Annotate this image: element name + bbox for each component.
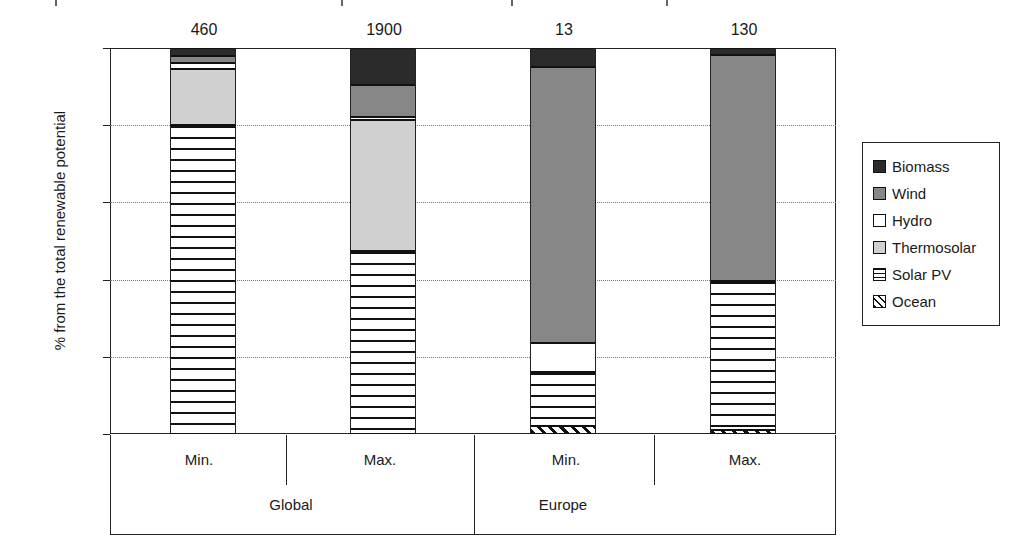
bar-segment-solar-pv[interactable] [531, 372, 595, 426]
bar-segment-wind[interactable] [351, 85, 415, 117]
group-label-europe: Europe [463, 496, 663, 513]
category-divider [286, 435, 287, 485]
bar-segment-hydro[interactable] [531, 343, 595, 372]
stacked-bar[interactable]: 13 [530, 48, 596, 434]
group-divider [474, 435, 475, 534]
category-label-europe-max: Max. [685, 451, 805, 468]
bar-segment-solar-pv[interactable] [711, 281, 775, 430]
bar-segment-biomass[interactable] [711, 48, 775, 55]
bar-value-label: 130 [691, 22, 797, 38]
legend-label: Solar PV [892, 267, 951, 282]
y-tick-mark [103, 280, 110, 281]
y-tick-mark [103, 434, 110, 435]
bar-segment-ocean[interactable] [711, 430, 775, 434]
thermo-swatch-icon [873, 241, 886, 254]
plot-frame-right [835, 48, 836, 434]
bar-segment-wind[interactable] [531, 67, 595, 343]
bar-value-label: 460 [151, 22, 257, 38]
bar-segment-biomass[interactable] [351, 48, 415, 85]
bar-segment-wind[interactable] [171, 56, 235, 63]
legend-label: Thermosolar [892, 240, 976, 255]
stacked-bar-chart: % from the total renewable potential 020… [0, 0, 1018, 537]
bar-segment-thermosolar[interactable] [351, 120, 415, 251]
stacked-bar[interactable]: 460 [170, 48, 236, 434]
hydro-swatch-icon [873, 214, 886, 227]
stacked-bar[interactable]: 1900 [350, 48, 416, 434]
category-label-global-min: Min. [139, 451, 259, 468]
legend-item-solarpv[interactable]: Solar PV [873, 261, 991, 288]
bar-segment-biomass[interactable] [531, 48, 595, 67]
bar-value-label: 13 [511, 22, 617, 38]
stacked-bar[interactable]: 130 [710, 48, 776, 434]
y-axis-title: % from the total renewable potential [51, 41, 68, 421]
legend-item-thermo[interactable]: Thermosolar [873, 234, 991, 261]
biomass-swatch-icon [873, 160, 886, 173]
bar-segment-thermosolar[interactable] [171, 69, 235, 125]
y-tick-mark [103, 357, 110, 358]
bar-segment-solar-pv[interactable] [171, 125, 235, 434]
wind-swatch-icon [873, 187, 886, 200]
y-tick-mark [103, 125, 110, 126]
legend-label: Ocean [892, 294, 936, 309]
category-label-global-max: Max. [320, 451, 440, 468]
solarpv-swatch-icon [873, 268, 886, 281]
y-axis-line [110, 48, 111, 434]
plot-area: 020406080100 460190013130 [110, 48, 836, 434]
ocean-swatch-icon [873, 295, 886, 308]
bar-segment-solar-pv[interactable] [351, 251, 415, 434]
bar-segment-ocean[interactable] [531, 426, 595, 434]
legend-item-ocean[interactable]: Ocean [873, 288, 991, 315]
legend-item-wind[interactable]: Wind [873, 180, 991, 207]
bar-segment-wind[interactable] [711, 55, 775, 281]
legend-label: Wind [892, 186, 926, 201]
category-divider [654, 435, 655, 485]
bar-segment-biomass[interactable] [171, 48, 235, 56]
legend-item-biomass[interactable]: Biomass [873, 153, 991, 180]
group-label-global: Global [191, 496, 391, 513]
category-label-europe-min: Min. [506, 451, 626, 468]
y-tick-mark [103, 202, 110, 203]
category-axis: Min. Max. Min. Max. Global Europe [110, 435, 836, 535]
bar-value-label: 1900 [331, 22, 437, 38]
legend-label: Biomass [892, 159, 950, 174]
y-tick-mark [103, 48, 110, 49]
legend-label: Hydro [892, 213, 932, 228]
legend: BiomassWindHydroThermosolarSolar PVOcean [862, 142, 1000, 326]
legend-item-hydro[interactable]: Hydro [873, 207, 991, 234]
